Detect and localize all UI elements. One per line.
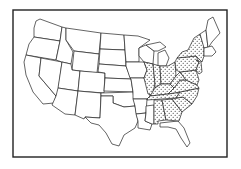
state-north-dakota bbox=[100, 33, 125, 50]
state-mississippi bbox=[145, 105, 154, 124]
western-states bbox=[24, 19, 105, 119]
state-wyoming bbox=[72, 51, 99, 73]
state-south-dakota bbox=[99, 49, 126, 66]
us-map bbox=[0, 0, 241, 169]
state-florida bbox=[160, 121, 190, 147]
state-maine bbox=[206, 17, 220, 48]
state-iowa bbox=[126, 62, 147, 78]
state-massachusetts-ct-ri bbox=[204, 46, 216, 56]
state-kansas bbox=[104, 78, 133, 92]
state-new-mexico bbox=[75, 91, 101, 119]
state-pennsylvania bbox=[175, 56, 199, 72]
state-colorado bbox=[78, 71, 105, 93]
